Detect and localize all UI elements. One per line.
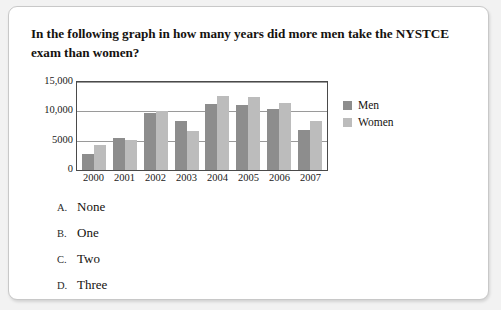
bar-women-2004 [217, 96, 229, 170]
option-letter: D. [57, 280, 77, 291]
bar-women-2003 [187, 131, 199, 170]
legend-swatch-women-icon [343, 118, 352, 127]
answer-option-d[interactable]: D.Three [57, 277, 107, 293]
bar-group [175, 82, 199, 170]
option-letter: A. [57, 202, 77, 213]
option-letter: B. [57, 228, 77, 239]
x-axis-label-2000: 2000 [80, 172, 108, 183]
answer-options: A.NoneB.OneC.TwoD.Three [57, 199, 107, 303]
bar-group [113, 82, 137, 170]
option-letter: C. [57, 254, 77, 265]
plot-area [76, 81, 328, 171]
legend-label-women: Women [358, 116, 393, 128]
legend-item-men: Men [343, 99, 393, 111]
x-axis-label-2004: 2004 [204, 172, 232, 183]
bar-group [298, 82, 322, 170]
question-text: In the following graph in how many years… [31, 25, 451, 62]
bar-men-2001 [113, 138, 125, 170]
bar-group [205, 82, 229, 170]
x-axis-label-2007: 2007 [297, 172, 325, 183]
bar-men-2004 [205, 104, 217, 170]
bar-women-2005 [248, 97, 260, 170]
option-text: One [77, 225, 99, 241]
bar-group [267, 82, 291, 170]
question-card: In the following graph in how many years… [8, 6, 489, 300]
bar-women-2006 [279, 103, 291, 170]
option-text: Three [77, 277, 107, 293]
answer-option-c[interactable]: C.Two [57, 251, 107, 267]
bar-women-2007 [310, 121, 322, 170]
bar-men-2006 [267, 109, 279, 170]
x-axis-labels: 20002001200220032004200520062007 [76, 172, 328, 183]
x-axis-label-2002: 2002 [142, 172, 170, 183]
chart-legend: Men Women [343, 99, 393, 133]
y-axis-tick-label: 10,000 [31, 105, 73, 116]
bar-men-2002 [144, 113, 156, 170]
bar-men-2000 [82, 154, 94, 170]
bar-men-2003 [175, 121, 187, 170]
bar-women-2001 [125, 140, 137, 171]
answer-option-a[interactable]: A.None [57, 199, 107, 215]
y-axis-tick-label: 5000 [31, 134, 73, 145]
bar-men-2005 [236, 105, 248, 170]
answer-option-b[interactable]: B.One [57, 225, 107, 241]
bar-group [144, 82, 168, 170]
x-axis-label-2003: 2003 [173, 172, 201, 183]
bar-groups [77, 82, 327, 170]
x-axis-label-2005: 2005 [235, 172, 263, 183]
legend-item-women: Women [343, 116, 393, 128]
bar-group [236, 82, 260, 170]
x-axis-label-2001: 2001 [111, 172, 139, 183]
option-text: None [77, 199, 105, 215]
legend-swatch-men-icon [343, 101, 352, 110]
bar-women-2002 [156, 111, 168, 170]
y-axis-tick-label: 0 [31, 163, 73, 174]
bar-men-2007 [298, 130, 310, 170]
y-axis-tick-label: 15,000 [31, 75, 73, 86]
bar-chart: 20002001200220032004200520062007 Men Wom… [31, 73, 451, 191]
bar-women-2000 [94, 145, 106, 170]
bar-group [82, 82, 106, 170]
x-axis-label-2006: 2006 [266, 172, 294, 183]
legend-label-men: Men [358, 99, 379, 111]
option-text: Two [77, 251, 100, 267]
